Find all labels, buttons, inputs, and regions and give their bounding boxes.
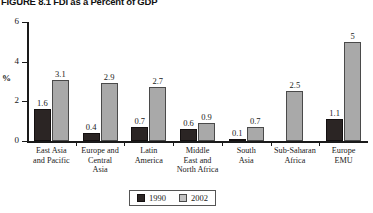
legend-item-1990[interactable]: 1990 — [137, 193, 166, 203]
bar-1990-east-asia-and-pacific[interactable] — [34, 109, 51, 141]
y-tick-label-0: 0 — [5, 135, 19, 145]
bar-value-label: 0.9 — [194, 112, 219, 122]
bar-1990-europe-emu[interactable] — [326, 119, 343, 141]
y-tick-2 — [22, 101, 27, 102]
y-tick-6 — [22, 22, 27, 23]
y-tick-4 — [22, 62, 27, 63]
bar-2002-sub-saharan-africa[interactable] — [286, 91, 303, 141]
bar-value-label: 3.1 — [48, 69, 73, 79]
category-label-line: Sub-Saharan — [274, 146, 316, 155]
category-label-line: EMU — [335, 156, 353, 165]
category-label-line: and Pacific — [33, 156, 70, 165]
light-swatch-icon — [179, 194, 187, 202]
bar-value-label: 5 — [340, 31, 365, 41]
category-label-line: Asia — [239, 156, 254, 165]
legend-label-2002: 2002 — [191, 193, 208, 203]
y-axis-line — [27, 22, 29, 142]
category-label-line: Asia — [93, 165, 108, 174]
figure-title: FIGURE 8.1 FDI as a Percent of GDP — [1, 0, 157, 7]
dark-swatch-icon — [137, 194, 145, 202]
category-label-line: East and — [184, 156, 212, 165]
legend-item-2002[interactable]: 2002 — [179, 193, 208, 203]
y-tick-0 — [22, 141, 27, 142]
bar-2002-europe-and-central-asia[interactable] — [101, 83, 118, 141]
category-label-line: Europe and — [81, 146, 119, 155]
chart-legend: 1990 2002 — [129, 190, 216, 206]
y-axis-title: % — [2, 73, 11, 83]
bar-2002-latin-america[interactable] — [149, 87, 166, 141]
category-label-line: Europe — [332, 146, 356, 155]
bar-value-label: 2.5 — [282, 80, 307, 90]
chart-plot-area: 0246 1.63.10.42.90.72.70.60.90.10.72.51.… — [27, 22, 368, 141]
category-label-europe-emu: EuropeEMU — [314, 146, 373, 165]
y-tick-label-6: 6 — [5, 16, 19, 26]
bar-2002-east-asia-and-pacific[interactable] — [52, 80, 69, 141]
bar-2002-south-asia[interactable] — [247, 127, 264, 141]
bar-2002-middle-east-and-north-africa[interactable] — [198, 123, 215, 141]
category-label-line: Central — [88, 156, 112, 165]
bar-1990-middle-east-and-north-africa[interactable] — [180, 129, 197, 141]
x-axis-line — [27, 141, 368, 143]
legend-label-1990: 1990 — [149, 193, 166, 203]
bar-value-label: 2.9 — [97, 72, 122, 82]
bar-1990-europe-and-central-asia[interactable] — [83, 133, 100, 141]
category-label-line: Middle — [186, 146, 210, 155]
y-tick-label-4: 4 — [5, 56, 19, 66]
category-label-line: America — [135, 156, 163, 165]
bar-1990-latin-america[interactable] — [131, 127, 148, 141]
bar-1990-south-asia[interactable] — [229, 139, 246, 141]
category-label-line: North Africa — [177, 165, 219, 174]
category-label-line: South — [237, 146, 256, 155]
y-tick-label-2: 2 — [5, 95, 19, 105]
bar-value-label: 2.7 — [145, 76, 170, 86]
category-label-line: Africa — [284, 156, 305, 165]
bar-value-label: 0.7 — [243, 116, 268, 126]
bar-2002-europe-emu[interactable] — [344, 42, 361, 141]
category-label-line: East Asia — [36, 146, 67, 155]
category-label-line: Latin — [140, 146, 157, 155]
